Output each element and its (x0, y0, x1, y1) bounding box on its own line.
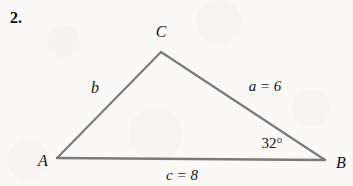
vertex-label-b: B (336, 155, 346, 171)
angle-label-b: 32° (262, 136, 283, 151)
side-ac-line (57, 52, 161, 158)
side-label-a: a = 6 (249, 79, 282, 94)
side-label-b: b (91, 80, 99, 96)
vertex-label-c: C (156, 24, 167, 40)
side-label-c: c = 8 (166, 168, 198, 183)
triangle-figure: 2. C A B b a = 6 c = 8 32° (0, 0, 353, 186)
side-ab-line (57, 158, 325, 160)
side-cb-line (161, 52, 325, 160)
problem-number: 2. (10, 10, 22, 26)
triangle-shape (0, 0, 353, 186)
vertex-label-a: A (38, 153, 48, 169)
